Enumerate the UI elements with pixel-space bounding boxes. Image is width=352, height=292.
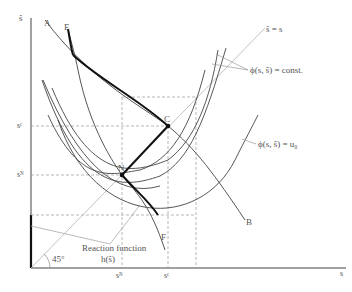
angle-arc <box>44 254 50 268</box>
reaction-label-line2: h(ŝ) <box>101 255 115 264</box>
reservation-label: ϕ(s, ŝ) = u₀ <box>258 140 297 149</box>
indifference-label: ϕ(s, ŝ) = const. <box>250 66 303 75</box>
label-E: E <box>64 23 70 32</box>
label-A: A <box>44 19 51 28</box>
diagonal-label: ŝ = s <box>266 25 283 34</box>
reaction-label-line1: Reaction function <box>82 244 146 253</box>
label-N: N <box>118 164 125 173</box>
tick-x-sN: sᴺ <box>116 272 123 280</box>
curve-AB <box>45 20 245 220</box>
bold-EC <box>73 55 168 126</box>
point-C <box>166 124 171 129</box>
tick-x-sC: sᶜ <box>164 272 169 280</box>
y-axis-label: ŝ <box>19 14 23 23</box>
diagram-canvas <box>0 0 352 292</box>
angle-label: 45° <box>52 255 65 264</box>
point-N <box>120 173 125 178</box>
label-C: C <box>164 115 170 124</box>
label-F: F <box>161 233 166 242</box>
reaction-pointer <box>31 205 140 244</box>
tick-y-sC: sᶜ <box>17 122 22 130</box>
diagram: ŝ s A E C N B F sᶜ sᴺ sᴺ sᶜ ŝ = s ϕ(s, ŝ… <box>0 0 352 292</box>
x-axis-label: s <box>340 270 343 278</box>
indifference-curves <box>42 48 258 208</box>
bold-E <box>68 29 73 55</box>
label-B: B <box>246 218 252 227</box>
tick-y-sN: sᴺ <box>17 171 24 179</box>
